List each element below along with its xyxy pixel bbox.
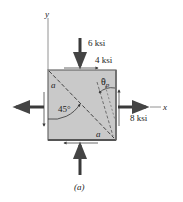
stress-element-diagram: y x 45° θp a a 6 ksi 4 ksi 8 ksi (a) [0,0,183,202]
y-axis-label: y [44,9,49,19]
plane-label-a-top: a [51,80,56,90]
normal-y-label: 6 ksi [88,38,106,48]
normal-x-label: 8 ksi [130,113,148,123]
angle-45-label: 45° [58,104,71,114]
shear-label: 4 ksi [95,55,113,65]
figure-caption: (a) [74,182,85,192]
plane-label-a-bottom: a [96,129,101,139]
x-axis-label: x [162,102,167,112]
